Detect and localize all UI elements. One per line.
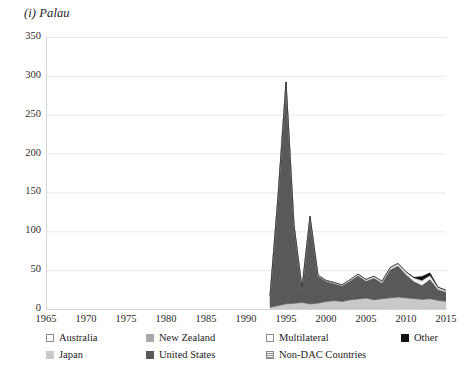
y-tick-label: 300 <box>0 69 41 80</box>
legend-swatch-icon <box>146 334 154 342</box>
legend-label: Multilateral <box>279 333 329 344</box>
legend-item-australia[interactable]: Australia <box>46 333 98 344</box>
legend-label: Other <box>414 333 438 344</box>
y-tick-label: 200 <box>0 147 41 158</box>
page-title: (i) Palau <box>24 6 70 21</box>
x-tick-label: 1985 <box>186 313 226 324</box>
y-tick-label: 50 <box>0 263 41 274</box>
stacked-area-series <box>46 37 446 309</box>
x-axis-line <box>46 309 447 310</box>
y-tick-label: 0 <box>0 302 41 313</box>
legend-label: Japan <box>59 350 83 361</box>
x-tick-label: 2000 <box>306 313 346 324</box>
x-tick-label: 1965 <box>26 313 66 324</box>
legend-swatch-icon <box>146 351 154 359</box>
legend-item-multilateral[interactable]: Multilateral <box>266 333 329 344</box>
legend-swatch-icon <box>46 334 54 342</box>
legend-row-top: AustraliaNew ZealandMultilateralOther <box>46 333 458 349</box>
chart-legend: AustraliaNew ZealandMultilateralOther Ja… <box>46 333 458 369</box>
legend-label: United States <box>159 350 215 361</box>
legend-label: Australia <box>59 333 98 344</box>
x-tick-label: 1995 <box>266 313 306 324</box>
x-tick-label: 2015 <box>426 313 466 324</box>
legend-item-new-zealand[interactable]: New Zealand <box>146 333 215 344</box>
y-tick-label: 150 <box>0 185 41 196</box>
legend-item-japan[interactable]: Japan <box>46 350 83 361</box>
y-tick-label: 350 <box>0 30 41 41</box>
x-tick-label: 1975 <box>106 313 146 324</box>
legend-item-other[interactable]: Other <box>401 333 438 344</box>
legend-item-non-dac-countries[interactable]: Non-DAC Countries <box>266 350 366 361</box>
plot-area <box>46 37 446 309</box>
y-tick-label: 250 <box>0 108 41 119</box>
legend-swatch-icon <box>46 351 54 359</box>
y-axis-line <box>46 37 47 310</box>
legend-swatch-icon <box>266 334 274 342</box>
x-tick-label: 1970 <box>66 313 106 324</box>
x-tick-label: 1980 <box>146 313 186 324</box>
x-tick-label: 2010 <box>386 313 426 324</box>
legend-label: New Zealand <box>159 333 215 344</box>
legend-item-united-states[interactable]: United States <box>146 350 215 361</box>
legend-label: Non-DAC Countries <box>279 350 366 361</box>
y-tick-label: 100 <box>0 224 41 235</box>
legend-swatch-icon <box>266 351 274 359</box>
x-tick-label: 2005 <box>346 313 386 324</box>
x-tick-label: 1990 <box>226 313 266 324</box>
legend-row-bottom: JapanUnited StatesNon-DAC Countries <box>46 350 458 366</box>
chart-figure: (i) Palau 050100150200250300350 19651970… <box>0 0 468 373</box>
legend-swatch-icon <box>401 334 409 342</box>
